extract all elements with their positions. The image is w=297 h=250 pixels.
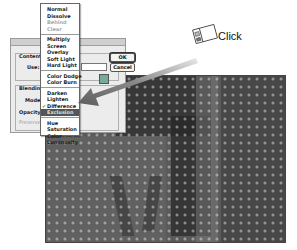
ok-button[interactable]: OK bbox=[110, 53, 135, 62]
menu-separator bbox=[41, 34, 79, 35]
use-select[interactable] bbox=[81, 63, 107, 71]
opacity-label: Opacity: bbox=[19, 109, 43, 115]
use-label: Use: bbox=[27, 64, 39, 70]
menu-item-hard-light[interactable]: Hard Light bbox=[41, 62, 79, 69]
blend-mode-menu: Normal Dissolve Behind Clear Multiply Sc… bbox=[40, 3, 80, 136]
menu-separator bbox=[41, 70, 79, 71]
mouse-click-icon bbox=[191, 23, 218, 45]
menu-item-clear: Clear bbox=[41, 26, 79, 33]
menu-item-color-burn[interactable]: Color Burn bbox=[41, 79, 79, 86]
menu-item-exclusion[interactable]: Exclusion bbox=[41, 109, 79, 116]
menu-item-luminosity[interactable]: Luminosity bbox=[41, 139, 79, 146]
menu-separator bbox=[41, 87, 79, 88]
click-callout-label: Click bbox=[218, 30, 242, 42]
cancel-button[interactable]: Cancel bbox=[110, 63, 135, 72]
pattern-swatch[interactable] bbox=[99, 74, 109, 84]
menu-separator bbox=[41, 117, 79, 118]
preserve-checkbox[interactable]: Preserve bbox=[19, 119, 41, 125]
